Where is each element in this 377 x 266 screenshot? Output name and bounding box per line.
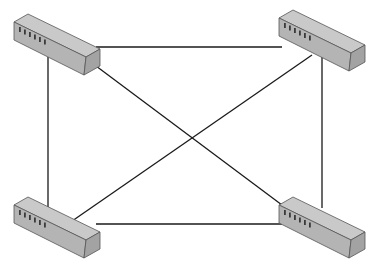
network-switch-icon: [14, 14, 100, 75]
network-switch-icon: [14, 197, 100, 258]
network-diagram: [0, 0, 377, 266]
switch-bottom-left[interactable]: [14, 197, 100, 258]
switch-top-left[interactable]: [14, 14, 100, 75]
link-diagonal-tr-bl: [62, 55, 312, 228]
link-diagonal-tl-br: [88, 60, 286, 208]
links: [48, 47, 322, 228]
